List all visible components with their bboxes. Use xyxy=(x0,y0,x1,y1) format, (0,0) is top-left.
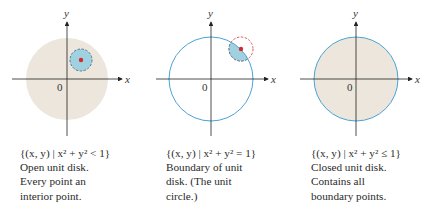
description-line: circle.) xyxy=(166,189,256,203)
caption-closed-disk: {(x, y) | x² + y² ≤ 1} Closed unit disk.… xyxy=(311,146,401,203)
interior-point xyxy=(79,58,83,62)
panel-boundary: x y 0 xyxy=(156,7,276,136)
caption-open-disk: {(x, y) | x² + y² < 1} Open unit disk. E… xyxy=(20,146,110,203)
description-line: Open unit disk. xyxy=(20,160,110,174)
description-line: interior point. xyxy=(20,189,110,203)
y-axis-label: y xyxy=(352,7,358,19)
origin-label: 0 xyxy=(57,81,63,93)
figure-canvas: x y 0 x y 0 x y 0 xyxy=(0,0,427,145)
description-line: boundary points. xyxy=(311,189,401,203)
description-line: Every point an xyxy=(20,174,110,188)
description-line: Boundary of unit xyxy=(166,160,256,174)
boundary-point xyxy=(239,47,243,51)
y-axis-label: y xyxy=(207,7,213,19)
set-notation: {(x, y) | x² + y² = 1} xyxy=(166,146,256,160)
panel-open-disk: x y 0 xyxy=(12,7,130,136)
set-notation: {(x, y) | x² + y² < 1} xyxy=(20,146,110,160)
description-line: disk. (The unit xyxy=(166,174,256,188)
y-axis-label: y xyxy=(63,7,69,19)
x-axis-label: x xyxy=(414,73,420,85)
panel-closed-disk: x y 0 xyxy=(300,7,420,136)
x-axis-label: x xyxy=(270,73,276,85)
caption-boundary: {(x, y) | x² + y² = 1} Boundary of unit … xyxy=(166,146,256,203)
set-notation: {(x, y) | x² + y² ≤ 1} xyxy=(311,146,401,160)
origin-label: 0 xyxy=(202,81,208,93)
description-line: Closed unit disk. xyxy=(311,160,401,174)
description-line: Contains all xyxy=(311,174,401,188)
origin-label: 0 xyxy=(347,81,353,93)
x-axis-label: x xyxy=(124,73,130,85)
